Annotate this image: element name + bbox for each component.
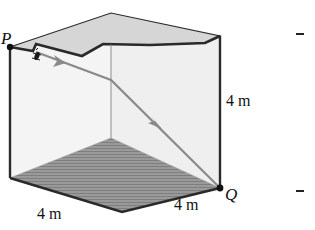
cube-figure xyxy=(0,0,315,230)
side-depth-dimension-label: 4 m xyxy=(174,197,198,213)
point-p-label: P xyxy=(1,30,11,47)
front-width-dimension-label: 4 m xyxy=(37,206,61,222)
height-dimension-label: 4 m xyxy=(226,93,250,109)
point-q-marker xyxy=(217,185,224,192)
point-q-label: Q xyxy=(225,186,237,203)
cube-diagram: P Q 4 m 4 m 4 m xyxy=(0,0,315,230)
